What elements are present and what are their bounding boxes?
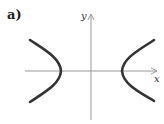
y-axis [88,14,94,120]
y-axis-label: y [80,10,87,21]
hyperbola-diagram: y x [0,0,164,124]
x-axis-label: x [154,73,160,84]
